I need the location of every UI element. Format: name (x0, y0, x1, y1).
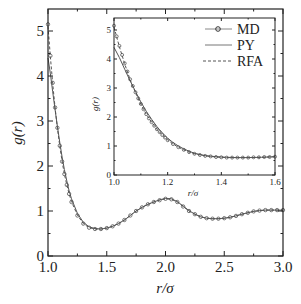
main-y-axis-title: g(r) (9, 121, 26, 144)
y-tick-label: 1 (107, 141, 112, 151)
y-tick-label: 4 (37, 68, 45, 84)
x-tick-label: 1.4 (216, 177, 228, 187)
y-tick-label: 3 (107, 83, 112, 93)
y-tick-label: 4 (107, 54, 112, 64)
inset-y-axis-title: g(r) (90, 97, 100, 111)
inset-x-axis-title: r/σ (188, 188, 199, 198)
y-tick-label: 2 (37, 158, 45, 174)
svg-text:PY: PY (237, 38, 255, 53)
x-tick-label: 1.2 (162, 177, 173, 187)
inset-y-tick-labels: 012345 (107, 25, 112, 180)
x-tick-label: 3.0 (274, 259, 293, 275)
svg-text:RFA: RFA (237, 54, 264, 69)
x-tick-label: 1.5 (97, 259, 116, 275)
inset-x-tick-labels: 1.01.21.41.6 (108, 177, 281, 187)
main-x-tick-labels: 1.01.52.02.53.0 (39, 259, 293, 275)
y-tick-label: 5 (37, 23, 45, 39)
x-tick-label: 2.5 (215, 259, 234, 275)
y-tick-label: 3 (37, 113, 45, 129)
y-tick-label: 5 (107, 25, 112, 35)
x-tick-label: 2.0 (156, 259, 175, 275)
svg-text:MD: MD (237, 22, 260, 37)
x-tick-label: 1.6 (269, 177, 281, 187)
y-tick-label: 0 (107, 170, 112, 180)
rdf-chart: 1.01.52.02.53.0 012345 r/σ g(r) 1.01.21.… (0, 0, 301, 304)
main-x-axis-title: r/σ (156, 280, 174, 296)
y-tick-label: 1 (37, 203, 45, 219)
y-tick-label: 0 (37, 248, 45, 264)
y-tick-label: 2 (107, 112, 112, 122)
main-y-tick-labels: 012345 (37, 23, 45, 264)
